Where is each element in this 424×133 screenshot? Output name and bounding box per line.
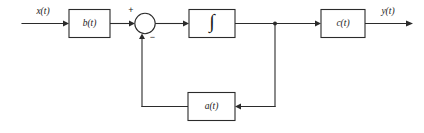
block-diagram-svg: b(t) ∫ c(t) a(t) + − x(t) y(t) — [0, 0, 424, 133]
arrowhead-into-a — [235, 104, 241, 110]
input-gain-block-label: b(t) — [83, 18, 97, 29]
arrowhead-into-sum-plus — [129, 21, 135, 27]
summing-junction-minus-sign: − — [150, 32, 155, 42]
summing-junction-plus-sign: + — [128, 5, 133, 15]
input-signal-label: x(t) — [35, 6, 49, 17]
output-gain-block-label: c(t) — [336, 18, 349, 29]
arrowhead-into-integrator — [183, 21, 189, 27]
summing-junction[interactable] — [135, 13, 155, 33]
output-signal-label: y(t) — [380, 6, 394, 17]
feedback-gain-block-label: a(t) — [205, 101, 219, 112]
arrowhead-into-sum-minus — [139, 34, 145, 40]
arrowhead-into-b — [63, 21, 69, 27]
arrowhead-output — [406, 21, 413, 27]
block-diagram-canvas: b(t) ∫ c(t) a(t) + − x(t) y(t) — [0, 0, 424, 133]
arrowhead-into-c — [315, 21, 321, 27]
